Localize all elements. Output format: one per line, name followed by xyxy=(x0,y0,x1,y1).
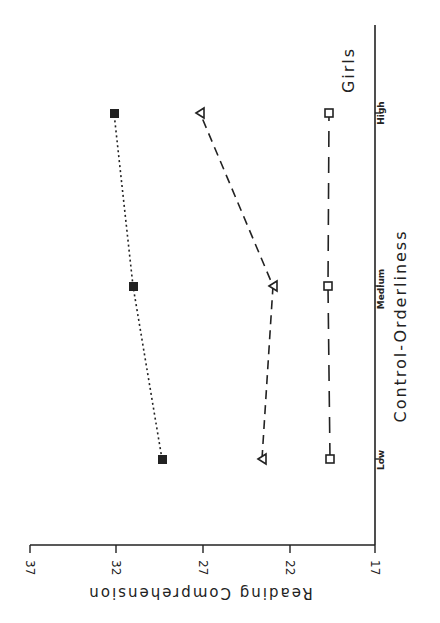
panel-label-girls: Girls xyxy=(339,47,358,93)
y-axis-title: Reading Comprehension xyxy=(87,584,312,602)
x-axis-title: Control-Orderliness xyxy=(391,229,410,422)
y-tick-37: 37 xyxy=(23,560,37,575)
series-1-markers xyxy=(110,109,167,464)
y-tick-22: 22 xyxy=(283,560,297,575)
y-tick-labels: 37 32 27 22 17 xyxy=(23,560,382,575)
x-tick-high: High xyxy=(376,101,386,124)
x-tick-medium: Medium xyxy=(376,269,386,309)
series-2-line xyxy=(200,113,273,459)
y-tick-27: 27 xyxy=(196,560,210,575)
x-tick-labels: High Medium Low xyxy=(376,101,386,470)
y-tick-32: 32 xyxy=(109,560,123,575)
chart-canvas: 37 32 27 22 17 Reading Comprehension Hig… xyxy=(0,0,440,623)
x-tick-low: Low xyxy=(376,450,386,470)
y-tick-17: 17 xyxy=(368,560,382,575)
y-ticks xyxy=(30,545,375,553)
